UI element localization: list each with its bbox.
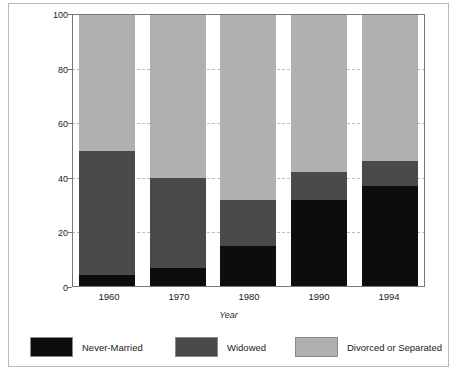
legend-item-never-married[interactable]: Never-Married	[30, 336, 143, 358]
x-axis-title: Year	[0, 310, 457, 320]
bar-segment-widowed-1980	[220, 200, 276, 246]
x-tick-label-1980: 1980	[219, 291, 279, 302]
chart-figure: 100 80 60 40 20 0 Percent of Children	[0, 0, 457, 374]
bar-segment-divorced-1990	[291, 14, 347, 172]
bar-segment-widowed-1970	[150, 178, 206, 268]
bar-segment-divorced-1960	[79, 14, 135, 151]
y-tick-mark-0	[68, 287, 72, 288]
x-tick-label-1970: 1970	[149, 291, 209, 302]
bar-segment-widowed-1990	[291, 172, 347, 199]
bar-column-1960[interactable]	[79, 14, 135, 287]
bar-segment-never-married-1970	[150, 268, 206, 287]
legend-label-divorced-or-separated: Divorced or Separated	[347, 342, 442, 353]
bar-column-1980[interactable]	[220, 14, 276, 287]
legend-item-divorced-or-separated[interactable]: Divorced or Separated	[295, 336, 442, 358]
legend-swatch-divorced-or-separated	[295, 337, 338, 357]
legend-swatch-never-married	[30, 337, 73, 357]
bar-segment-never-married-1960	[79, 275, 135, 287]
legend-swatch-widowed	[175, 337, 218, 357]
bar-segment-never-married-1980	[220, 246, 276, 287]
bar-segment-divorced-1970	[150, 14, 206, 178]
y-tick-label-80: 80	[28, 65, 68, 75]
plot-area	[72, 14, 425, 287]
x-tick-label-1990: 1990	[289, 291, 349, 302]
legend-item-widowed[interactable]: Widowed	[175, 336, 266, 358]
bar-segment-widowed-1994	[362, 161, 418, 186]
y-tick-label-40: 40	[28, 174, 68, 184]
bar-segment-never-married-1990	[291, 200, 347, 287]
bar-column-1970[interactable]	[150, 14, 206, 287]
y-tick-label-20: 20	[28, 228, 68, 238]
bar-segment-divorced-1994	[362, 14, 418, 161]
legend-label-never-married: Never-Married	[82, 342, 143, 353]
legend-label-widowed: Widowed	[227, 342, 266, 353]
x-tick-label-1994: 1994	[359, 291, 419, 302]
bar-column-1990[interactable]	[291, 14, 347, 287]
bar-column-1994[interactable]	[362, 14, 418, 287]
y-tick-label-100: 100	[28, 10, 68, 20]
x-tick-label-1960: 1960	[79, 291, 139, 302]
bar-segment-widowed-1960	[79, 151, 135, 275]
y-tick-label-0: 0	[28, 283, 68, 293]
bar-segment-never-married-1994	[362, 186, 418, 287]
chart-legend: Never-Married Widowed Divorced or Separa…	[30, 336, 430, 358]
bars-layer	[72, 14, 425, 287]
bar-segment-divorced-1980	[220, 14, 276, 200]
y-tick-label-60: 60	[28, 119, 68, 129]
